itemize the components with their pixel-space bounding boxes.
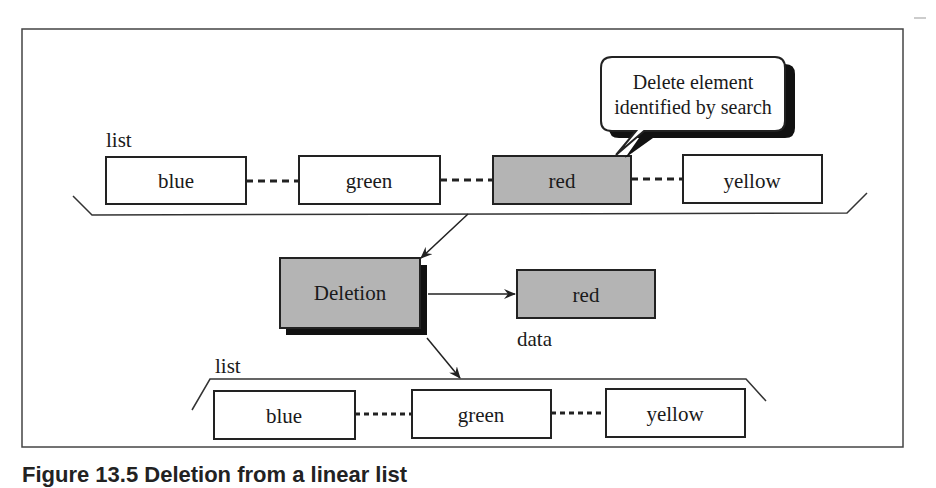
arrow-list-to-deletion — [421, 214, 468, 258]
top-node-blue: blue — [106, 157, 246, 204]
bottom-list: list blue green yellow — [192, 354, 766, 439]
svg-text:green: green — [346, 169, 393, 193]
callout-bubble: Delete element identified by search — [601, 57, 795, 158]
deletion-label: Deletion — [314, 281, 387, 305]
top-list-label: list — [106, 128, 132, 152]
arrow-deletion-to-list — [427, 338, 460, 378]
svg-text:yellow: yellow — [646, 402, 704, 426]
top-list: list blue green red yellow — [73, 128, 867, 215]
top-node-yellow: yellow — [683, 155, 822, 203]
callout-line-2: identified by search — [614, 96, 772, 119]
deletion-operation-box: Deletion — [280, 258, 427, 335]
svg-text:blue: blue — [158, 169, 194, 193]
bottom-node-yellow: yellow — [606, 389, 745, 437]
output-data-label: data — [517, 327, 553, 351]
callout-line-1: Delete element — [633, 71, 754, 93]
top-node-red-highlighted: red — [493, 156, 631, 204]
output-data-value: red — [573, 283, 600, 307]
svg-text:blue: blue — [266, 404, 302, 428]
svg-text:red: red — [549, 169, 576, 193]
svg-text:yellow: yellow — [723, 169, 781, 193]
bottom-list-label: list — [215, 354, 241, 378]
output-data-box: red — [517, 270, 655, 318]
bottom-node-blue: blue — [214, 391, 355, 439]
svg-text:green: green — [458, 403, 505, 427]
figure-caption: Figure 13.5 Deletion from a linear list — [22, 462, 407, 488]
bottom-node-green: green — [412, 390, 551, 438]
top-node-green: green — [299, 156, 440, 204]
